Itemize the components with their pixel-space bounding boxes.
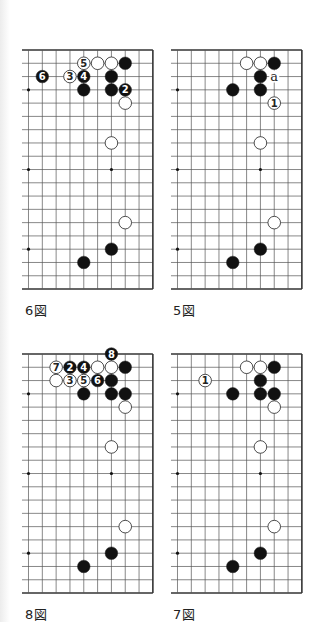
black-stone: 2 <box>64 361 77 374</box>
black-stone <box>78 388 91 401</box>
go-diagram-fig5: 1a <box>163 42 310 297</box>
star-point-icon <box>175 472 178 475</box>
black-stone <box>268 388 281 401</box>
move-number: 7 <box>53 362 60 373</box>
black-stone <box>268 361 281 374</box>
black-stone <box>226 560 239 573</box>
black-stone <box>105 243 118 256</box>
black-stone <box>119 57 132 70</box>
black-stone: 4 <box>78 361 91 374</box>
white-stone <box>254 57 267 70</box>
white-stone <box>268 216 281 229</box>
star-point-icon <box>258 472 261 475</box>
white-stone <box>105 441 118 454</box>
black-stone <box>119 361 132 374</box>
point-marker-label: a <box>270 69 278 84</box>
black-stone <box>119 388 132 401</box>
black-stone <box>105 84 118 97</box>
black-stone <box>226 256 239 269</box>
figure-label-7: 7図 <box>173 604 196 622</box>
move-number: 4 <box>80 362 87 373</box>
star-point-icon <box>175 88 178 91</box>
star-point-icon <box>27 392 30 395</box>
white-stone: 1 <box>268 97 281 110</box>
white-stone <box>268 520 281 533</box>
black-stone: 2 <box>119 84 132 97</box>
star-point-icon <box>27 168 30 171</box>
black-stone <box>254 547 267 560</box>
black-stone <box>268 57 281 70</box>
move-number: 8 <box>108 349 115 360</box>
figure-label-6: 6図 <box>25 300 48 319</box>
star-point-icon <box>258 168 261 171</box>
move-number: 1 <box>201 375 208 386</box>
go-diagram-fig8: 8724356 <box>14 346 161 601</box>
white-stone <box>254 137 267 150</box>
white-stone <box>119 97 132 110</box>
page-edge-shadow <box>0 0 10 622</box>
star-point-icon <box>175 552 178 555</box>
white-stone <box>268 401 281 414</box>
move-number: 3 <box>67 375 74 386</box>
star-point-icon <box>27 88 30 91</box>
move-number: 2 <box>67 362 74 373</box>
white-stone: 1 <box>198 374 211 387</box>
white-stone <box>240 57 253 70</box>
star-point-icon <box>110 168 113 171</box>
black-stone <box>254 243 267 256</box>
star-point-icon <box>27 552 30 555</box>
white-stone <box>119 401 132 414</box>
white-stone <box>105 57 118 70</box>
figure-label-8: 8図 <box>25 604 48 622</box>
black-stone <box>105 374 118 387</box>
black-stone <box>105 547 118 560</box>
star-point-icon <box>175 248 178 251</box>
white-stone <box>240 361 253 374</box>
white-stone: 5 <box>78 374 91 387</box>
white-stone: 5 <box>78 57 91 70</box>
black-stone <box>105 70 118 83</box>
move-number: 3 <box>67 71 74 82</box>
black-stone: 6 <box>91 374 104 387</box>
white-stone: 3 <box>64 70 77 83</box>
black-stone <box>254 84 267 97</box>
black-stone <box>78 84 91 97</box>
move-number: 6 <box>39 71 46 82</box>
black-stone: 6 <box>36 70 49 83</box>
white-stone <box>91 57 104 70</box>
move-number: 1 <box>270 98 277 109</box>
white-stone <box>119 216 132 229</box>
move-number: 5 <box>80 375 87 386</box>
white-stone <box>254 441 267 454</box>
white-stone <box>119 520 132 533</box>
star-point-icon <box>27 472 30 475</box>
white-stone <box>105 361 118 374</box>
white-stone <box>254 361 267 374</box>
star-point-icon <box>175 168 178 171</box>
star-point-icon <box>175 392 178 395</box>
black-stone <box>105 388 118 401</box>
move-number: 5 <box>80 58 87 69</box>
black-stone <box>226 84 239 97</box>
go-diagram-fig6: 56342 <box>14 42 161 297</box>
star-point-icon <box>110 472 113 475</box>
black-stone <box>78 256 91 269</box>
move-number: 2 <box>122 84 129 95</box>
black-stone <box>226 388 239 401</box>
white-stone <box>50 374 63 387</box>
black-stone <box>254 70 267 83</box>
figure-label-5: 5図 <box>173 300 196 319</box>
black-stone: 8 <box>105 348 118 361</box>
move-number: 6 <box>94 375 101 386</box>
white-stone: 3 <box>64 374 77 387</box>
black-stone <box>254 374 267 387</box>
black-stone <box>254 388 267 401</box>
white-stone: 7 <box>50 361 63 374</box>
white-stone <box>91 361 104 374</box>
star-point-icon <box>27 248 30 251</box>
move-number: 4 <box>80 71 87 82</box>
go-diagram-fig7: 1 <box>163 346 310 601</box>
black-stone <box>78 560 91 573</box>
white-stone <box>105 137 118 150</box>
black-stone: 4 <box>78 70 91 83</box>
